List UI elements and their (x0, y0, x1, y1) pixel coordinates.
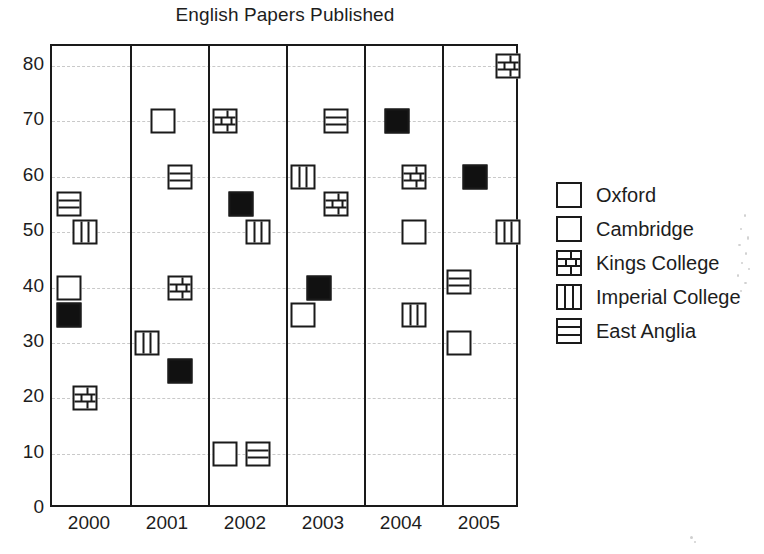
y-axis-tick-label: 10 (0, 441, 44, 463)
chart-canvas: English Papers Published 010203040506070… (0, 0, 764, 554)
legend-swatch-solid-square-icon (556, 182, 582, 208)
column-separator (286, 46, 288, 505)
legend-item-label: Cambridge (596, 219, 694, 239)
scan-artifact (740, 290, 742, 292)
data-point-kings-college (72, 386, 97, 411)
legend-swatch-vertical-lines-icon (556, 284, 582, 310)
data-point-kings-college (167, 275, 192, 300)
scan-artifact (744, 282, 747, 284)
x-axis-tick-label: 2003 (302, 512, 344, 534)
y-axis-tick-label: 40 (0, 275, 44, 297)
column-separator (130, 46, 132, 505)
legend-item-label: East Anglia (596, 321, 696, 341)
data-point-imperial-college (135, 330, 160, 355)
data-point-kings-college (401, 164, 426, 189)
data-point-east-anglia (245, 441, 270, 466)
x-axis: 200020012002200320042005 (50, 512, 518, 542)
scan-artifact (745, 252, 747, 255)
data-point-oxford (57, 303, 82, 328)
legend-item-label: Oxford (596, 185, 656, 205)
x-axis-tick-label: 2000 (68, 512, 110, 534)
legend-item-label: Kings College (596, 253, 719, 273)
legend-item-cambridge[interactable]: Cambridge (556, 212, 762, 246)
scan-artifact (748, 268, 750, 270)
y-axis: 01020304050607080 (0, 44, 44, 507)
legend-item-imperial-college[interactable]: Imperial College (556, 280, 762, 314)
plot-area (50, 44, 518, 507)
y-axis-tick-label: 60 (0, 164, 44, 186)
grid-line (52, 177, 516, 178)
data-point-east-anglia (323, 109, 348, 134)
data-point-oxford (167, 358, 192, 383)
legend-item-label: Imperial College (596, 287, 741, 307)
legend-swatch-open-square-icon (556, 216, 582, 242)
data-point-cambridge (447, 330, 472, 355)
data-point-oxford (228, 192, 253, 217)
scan-artifact (738, 244, 741, 246)
data-point-imperial-college (72, 220, 97, 245)
data-point-kings-college (213, 109, 238, 134)
data-point-cambridge (150, 109, 175, 134)
column-separator (208, 46, 210, 505)
data-point-oxford (306, 275, 331, 300)
legend-swatch-horizontal-lines-icon (556, 318, 582, 344)
legend-item-kings-college[interactable]: Kings College (556, 246, 762, 280)
data-point-east-anglia (447, 269, 472, 294)
data-point-oxford (462, 164, 487, 189)
data-point-cambridge (213, 441, 238, 466)
data-point-cambridge (57, 275, 82, 300)
column-separator (442, 46, 444, 505)
y-axis-tick-label: 70 (0, 108, 44, 130)
x-axis-tick-label: 2002 (224, 512, 266, 534)
scan-artifact (737, 274, 739, 277)
scan-artifact (690, 536, 693, 539)
column-separator (364, 46, 366, 505)
data-point-imperial-college (291, 164, 316, 189)
x-axis-tick-label: 2005 (458, 512, 500, 534)
page-title: English Papers Published (50, 4, 520, 26)
data-point-east-anglia (57, 192, 82, 217)
scan-artifact (694, 541, 696, 543)
legend-item-east-anglia[interactable]: East Anglia (556, 314, 762, 348)
data-point-imperial-college (245, 220, 270, 245)
scan-artifact (741, 262, 743, 264)
grid-line (52, 454, 516, 455)
grid-line (52, 232, 516, 233)
data-point-kings-college (323, 192, 348, 217)
legend-swatch-brick-icon (556, 250, 582, 276)
data-point-cambridge (401, 220, 426, 245)
y-axis-tick-label: 80 (0, 53, 44, 75)
data-point-imperial-college (401, 303, 426, 328)
y-axis-tick-label: 0 (0, 496, 44, 518)
grid-line (52, 121, 516, 122)
data-point-oxford (384, 109, 409, 134)
chart-legend: OxfordCambridgeKings CollegeImperial Col… (556, 178, 762, 348)
y-axis-tick-label: 30 (0, 330, 44, 352)
scan-artifact (747, 236, 749, 240)
y-axis-tick-label: 20 (0, 385, 44, 407)
grid-line (52, 66, 516, 67)
scan-artifact (740, 228, 742, 230)
x-axis-tick-label: 2001 (146, 512, 188, 534)
x-axis-tick-label: 2004 (380, 512, 422, 534)
scan-artifact (744, 214, 746, 217)
data-point-kings-college (495, 54, 520, 79)
data-point-east-anglia (167, 164, 192, 189)
data-point-cambridge (291, 303, 316, 328)
y-axis-tick-label: 50 (0, 219, 44, 241)
grid-line (52, 398, 516, 399)
data-point-imperial-college (495, 220, 520, 245)
legend-item-oxford[interactable]: Oxford (556, 178, 762, 212)
